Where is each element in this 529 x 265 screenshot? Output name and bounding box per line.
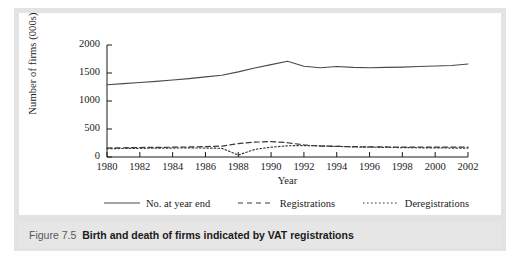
x-tick-label: 2002 (448, 161, 488, 172)
caption-text: Birth and death of firms indicated by VA… (82, 229, 353, 241)
legend-item-no-at-year-end: No. at year end (103, 198, 210, 209)
legend-label-deregistrations: Deregistrations (405, 198, 469, 209)
y-tick-label: 1000 (62, 94, 100, 105)
x-axis-title: Year (107, 175, 468, 186)
legend-label-registrations: Registrations (280, 198, 335, 209)
legend-item-registrations: Registrations (237, 198, 335, 209)
y-tick-label: 500 (62, 122, 100, 133)
figure-container: Number of firms (000s) Year 050010001500… (0, 0, 529, 265)
chart-legend: No. at year end Registrations Deregistra… (103, 194, 469, 212)
y-tick-label: 2000 (62, 38, 100, 49)
legend-label-no-at-year-end: No. at year end (146, 198, 210, 209)
legend-item-deregistrations: Deregistrations (362, 198, 469, 209)
figure-caption: Figure 7.5 Birth and death of firms indi… (19, 222, 501, 248)
y-tick-label: 0 (62, 150, 100, 161)
caption-number: Figure 7.5 (29, 229, 76, 241)
y-tick-label: 1500 (62, 66, 100, 77)
legend-swatch-solid (103, 199, 141, 207)
y-axis-title: Number of firms (000s) (27, 0, 38, 129)
legend-swatch-dashed (237, 199, 275, 207)
legend-swatch-dotted (362, 199, 400, 207)
